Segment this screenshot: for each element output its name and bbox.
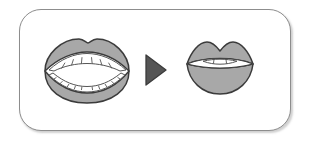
illustration-stage bbox=[0, 0, 309, 143]
mouth-slightly-open-figure bbox=[183, 36, 257, 100]
arrow-right-triangle bbox=[146, 55, 166, 85]
transition-arrow-icon bbox=[143, 53, 169, 87]
mouth-open-wide-figure bbox=[40, 30, 134, 108]
